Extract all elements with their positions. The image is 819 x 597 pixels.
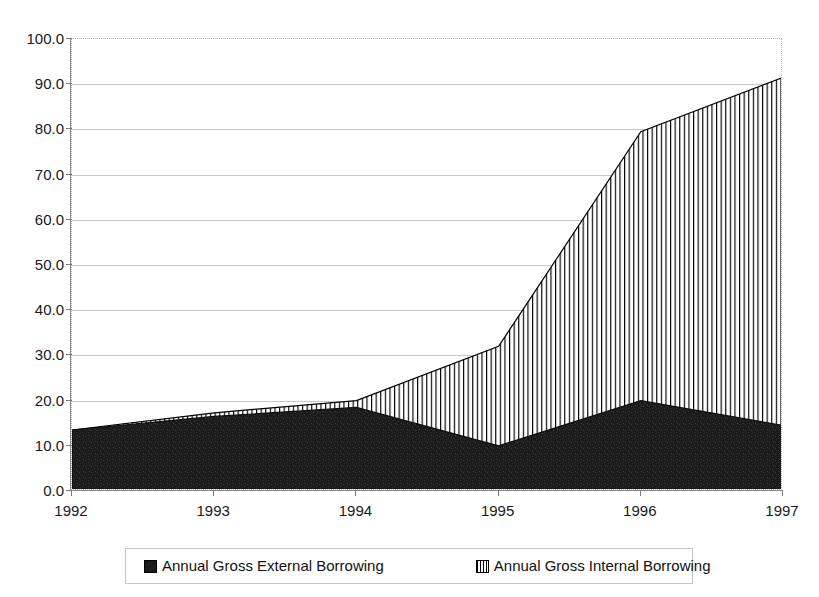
y-axis-tick bbox=[66, 219, 72, 220]
y-axis-tick bbox=[66, 354, 72, 355]
stacked-area-chart: 100.090.080.070.060.050.040.030.020.010.… bbox=[0, 0, 819, 597]
y-axis-tick bbox=[66, 445, 72, 446]
y-axis-tick bbox=[66, 128, 72, 129]
x-axis-tick-label: 1993 bbox=[178, 503, 248, 518]
x-axis-labels: 199219931994199519961997 bbox=[0, 0, 819, 597]
solid-dark-square-icon bbox=[144, 560, 157, 573]
x-axis-tick-label: 1997 bbox=[747, 503, 817, 518]
legend-item-external: Annual Gross External Borrowing bbox=[144, 558, 384, 574]
x-axis-tick bbox=[71, 490, 72, 496]
y-axis-tick bbox=[66, 174, 72, 175]
x-axis-tick-label: 1995 bbox=[463, 503, 533, 518]
x-axis-tick-label: 1994 bbox=[320, 503, 390, 518]
x-axis-tick-label: 1996 bbox=[605, 503, 675, 518]
y-axis-tick bbox=[66, 83, 72, 84]
y-axis-tick bbox=[66, 309, 72, 310]
y-axis-tick bbox=[66, 400, 72, 401]
y-axis-tick bbox=[66, 264, 72, 265]
x-axis-tick bbox=[782, 490, 783, 496]
legend-item-internal: Annual Gross Internal Borrowing bbox=[476, 558, 711, 574]
x-axis-tick bbox=[355, 490, 356, 496]
legend-label-external: Annual Gross External Borrowing bbox=[162, 558, 384, 574]
x-axis-tick-label: 1992 bbox=[36, 503, 106, 518]
x-axis-tick bbox=[498, 490, 499, 496]
vertical-striped-square-icon bbox=[476, 560, 489, 573]
x-axis-tick bbox=[213, 490, 214, 496]
legend-label-internal: Annual Gross Internal Borrowing bbox=[494, 558, 711, 574]
chart-legend: Annual Gross External Borrowing Annual G… bbox=[125, 548, 693, 584]
y-axis-tick bbox=[66, 38, 72, 39]
x-axis-tick bbox=[640, 490, 641, 496]
